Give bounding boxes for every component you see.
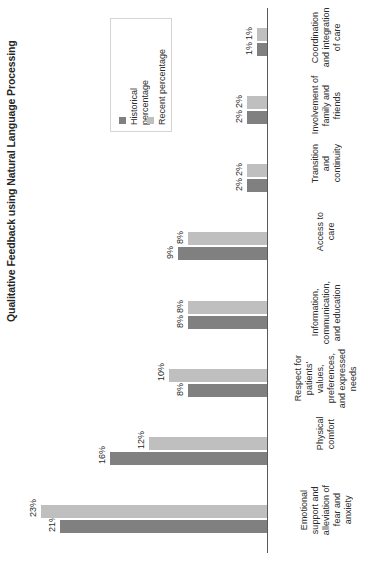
bar-group: 1%1%Coordination and integration of care xyxy=(0,8,385,76)
bar-group-bars: 16%12% xyxy=(0,417,267,485)
category-axis-label: Emotional support and alleviation of fea… xyxy=(272,485,380,553)
bar-group-bars: 2%2% xyxy=(0,76,267,144)
bar-historical xyxy=(247,179,267,192)
bar-value-label: 2% xyxy=(235,97,244,108)
bar-value-label: 1% xyxy=(245,44,254,55)
category-axis-label: Transition and continuity xyxy=(272,144,380,212)
bar-recent xyxy=(188,301,267,314)
bar-value-label: 8% xyxy=(176,233,185,244)
bar-recent xyxy=(247,96,267,109)
category-axis-label: Information, communication, and educatio… xyxy=(272,281,380,349)
bar-group-bars: 8%10% xyxy=(0,349,267,417)
category-axis-label: Physical comfort xyxy=(272,417,380,485)
bar-historical xyxy=(257,43,267,56)
bar-recent xyxy=(188,232,267,245)
bar-group: 8%8%Information, communication, and educ… xyxy=(0,281,385,349)
bar-historical xyxy=(247,111,267,124)
category-axis-label: Respect for patients' values, preference… xyxy=(272,349,380,417)
bar-value-label: 12% xyxy=(137,438,146,449)
bar-value-label: 9% xyxy=(166,248,175,259)
bar-recent xyxy=(247,164,267,177)
bar-value-label: 10% xyxy=(157,370,166,381)
bar-historical xyxy=(188,316,267,329)
bar-value-label: 21% xyxy=(48,521,57,532)
bar-group: 8%10%Respect for patients' values, prefe… xyxy=(0,349,385,417)
bar-historical xyxy=(178,247,267,260)
bar-group: 9%8%Access to care xyxy=(0,212,385,280)
category-axis-label: Involvement of family and friends xyxy=(272,76,380,144)
bar-recent xyxy=(41,505,267,518)
bar-group: 2%2%Transition and continuity xyxy=(0,144,385,212)
bar-value-label: 23% xyxy=(29,506,38,517)
bar-value-label: 2% xyxy=(235,180,244,191)
bar-value-label: 8% xyxy=(176,302,185,313)
category-axis-label: Access to care xyxy=(272,212,380,280)
category-axis-label: Coordination and integration of care xyxy=(272,8,380,76)
bar-group-bars: 8%8% xyxy=(0,281,267,349)
bar-value-label: 16% xyxy=(98,453,107,464)
bar-group-bars: 9%8% xyxy=(0,212,267,280)
bar-group-bars: 2%2% xyxy=(0,144,267,212)
bar-group: 2%2%Involvement of family and friends xyxy=(0,76,385,144)
bar-group: 16%12%Physical comfort xyxy=(0,417,385,485)
bar-group-bars: 1%1% xyxy=(0,8,267,76)
bar-group-bars: 21%23% xyxy=(0,485,267,553)
bar-value-label: 8% xyxy=(176,317,185,328)
bar-value-label: 2% xyxy=(235,165,244,176)
bar-recent xyxy=(149,437,267,450)
bar-historical xyxy=(110,452,267,465)
bar-recent xyxy=(257,28,267,41)
bar-value-label: 2% xyxy=(235,112,244,123)
bar-value-label: 8% xyxy=(176,385,185,396)
bar-recent xyxy=(169,369,267,382)
chart-plot-area: 21%23%Emotional support and alleviation … xyxy=(0,0,385,563)
bar-group: 21%23%Emotional support and alleviation … xyxy=(0,485,385,553)
bar-historical xyxy=(188,384,267,397)
bar-historical xyxy=(60,520,267,533)
bar-value-label: 1% xyxy=(245,29,254,40)
